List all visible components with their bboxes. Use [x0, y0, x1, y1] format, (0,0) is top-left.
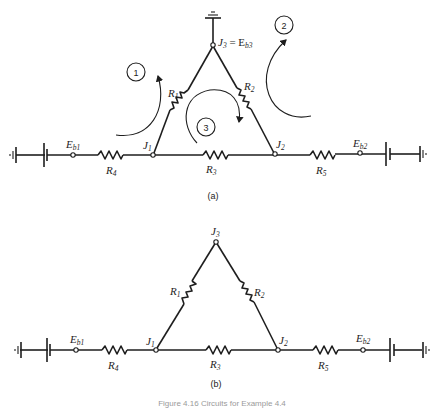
- node-eb2: [358, 151, 362, 155]
- label-eb1-b: Eb1: [69, 333, 84, 347]
- label-j1: J1: [143, 139, 152, 153]
- label-r2: R2: [243, 80, 255, 94]
- label-r5: R5: [315, 164, 327, 178]
- resistor-r4-b: [102, 346, 127, 354]
- label-j3-eb3: J3 = Eb3: [218, 36, 253, 50]
- resistor-r5-b: [313, 346, 338, 354]
- battery-left-b: [47, 338, 50, 362]
- svg-text:2: 2: [281, 21, 286, 31]
- node-j2: [273, 152, 277, 156]
- resistor-r4: [98, 151, 123, 159]
- label-eb2-b: Eb2: [355, 332, 370, 346]
- resistor-r5: [310, 151, 335, 159]
- battery-right-b: [390, 338, 394, 362]
- node-j3: [211, 43, 215, 47]
- resistor-r1: [154, 46, 213, 153]
- node-j2-b: [276, 348, 280, 352]
- panel-b: J3 J1 J2 Eb1 Eb2 R1 R2 R3 R4 R5 (b): [15, 225, 429, 389]
- loop-1: 1: [116, 63, 161, 136]
- battery-left: [44, 143, 47, 167]
- label-j2: J2: [276, 138, 285, 152]
- label-j3-b: J3: [211, 225, 220, 239]
- resistor-r2-b: [216, 242, 277, 348]
- node-eb2-b: [361, 348, 365, 352]
- circuit-figure: J3 = Eb3 J1 J2 Eb1 Eb2 R1 R2 R3 R4 R5 1 …: [0, 0, 441, 410]
- label-r5-b: R5: [317, 359, 329, 373]
- label-eb2: Eb2: [352, 137, 367, 151]
- label-r4: R4: [105, 164, 117, 178]
- label-r3-b: R3: [209, 358, 221, 372]
- label-r1-b: R1: [169, 285, 180, 299]
- label-r4-b: R4: [107, 359, 119, 373]
- svg-text:3: 3: [203, 123, 208, 133]
- loop-2: 2: [266, 16, 311, 117]
- ground-icon-right: [420, 146, 426, 162]
- loop-3: 3: [186, 90, 239, 143]
- figure-caption: Figure 4.16 Circuits for Example 4.4: [158, 399, 286, 408]
- node-eb1: [71, 153, 75, 157]
- node-eb1-b: [74, 348, 78, 352]
- svg-text:1: 1: [133, 68, 138, 78]
- ground-icon-left: [10, 147, 16, 163]
- panel-a: J3 = Eb3 J1 J2 Eb1 Eb2 R1 R2 R3 R4 R5 1 …: [10, 12, 426, 201]
- node-j1: [151, 153, 155, 157]
- resistor-r3-b: [206, 346, 231, 354]
- ground-icon-right-b: [423, 342, 429, 358]
- label-eb1: Eb1: [65, 138, 80, 152]
- battery-right: [386, 142, 390, 166]
- label-r2-b: R2: [253, 286, 265, 300]
- resistor-r2: [213, 46, 274, 153]
- label-r1: R1: [167, 87, 178, 101]
- panel-b-label: (b): [211, 379, 222, 389]
- label-r3: R3: [205, 163, 217, 177]
- resistor-r1-b: [157, 242, 216, 348]
- panel-a-label: (a): [208, 191, 219, 201]
- resistor-r3: [203, 151, 228, 159]
- label-j2-b: J2: [279, 334, 288, 348]
- label-j1-b: J1: [146, 335, 155, 349]
- node-j3-b: [214, 240, 218, 244]
